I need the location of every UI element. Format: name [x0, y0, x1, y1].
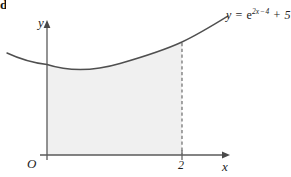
exponent-term-b: 4 — [266, 7, 270, 16]
origin-label: O — [27, 157, 36, 170]
x-tick-label-2: 2 — [178, 159, 184, 171]
y-axis-label: y — [38, 16, 44, 29]
question-label-fragment: d — [0, 0, 6, 9]
y-axis-arrow-icon — [44, 20, 51, 28]
shaded-area-under-curve — [47, 42, 182, 155]
equation-exponent: 2x−4 — [252, 7, 269, 16]
x-axis-arrow-icon — [222, 152, 230, 159]
equation-plus: + — [273, 8, 282, 22]
math-figure: d y x O 2 y = e2x−4 + 5 — [0, 0, 291, 177]
equation-lhs: y — [226, 8, 231, 22]
x-axis-label: x — [222, 160, 228, 173]
equation-constant: 5 — [285, 8, 291, 22]
equation-equals: = — [235, 8, 244, 22]
curve-equation-label: y = e2x−4 + 5 — [226, 9, 291, 21]
